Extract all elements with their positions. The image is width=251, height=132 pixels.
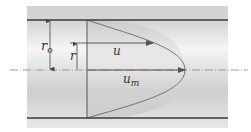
u-label: u (113, 44, 121, 58)
pipe-flow-diagram: ro r u um (0, 0, 251, 132)
